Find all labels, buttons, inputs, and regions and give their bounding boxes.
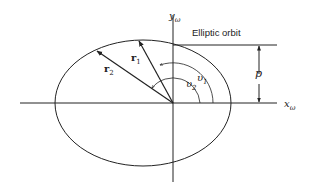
x-axis-label: xω — [284, 98, 296, 112]
orbit-diagram: Elliptic orbit yω xω r1 r2 υ1 υ2 p — [0, 0, 309, 190]
v1-label: υ1 — [197, 72, 208, 86]
p-label: p — [255, 67, 262, 80]
orbit-title: Elliptic orbit — [192, 27, 241, 38]
r2-label: r2 — [104, 63, 114, 77]
r1-label: r1 — [131, 52, 141, 66]
r1-vector — [139, 41, 173, 103]
y-axis-label: yω — [168, 10, 181, 24]
v2-label: υ2 — [186, 78, 197, 92]
